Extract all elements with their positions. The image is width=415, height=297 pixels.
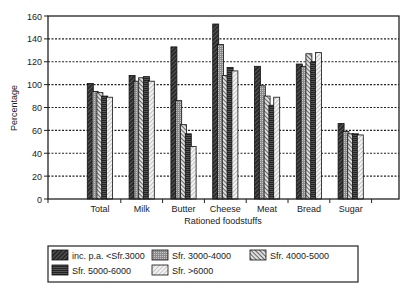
legend-item: Sfr. 3000-4000 xyxy=(152,250,231,261)
x-tick-label: Milk xyxy=(134,204,150,214)
legend-label: Sfr. 3000-4000 xyxy=(172,251,231,261)
bar-group-total xyxy=(87,83,112,199)
y-tick-label: 160 xyxy=(27,12,42,22)
bar-chart: 020406080100120140160TotalMilkButterChee… xyxy=(0,0,415,297)
bar-group-butter xyxy=(171,47,196,199)
bar xyxy=(357,135,363,199)
bars xyxy=(87,24,363,199)
y-tick-label: 60 xyxy=(32,126,42,136)
legend-item: Sfr. >6000 xyxy=(152,265,213,276)
x-tick-label: Bread xyxy=(297,204,321,214)
bar-group-bread xyxy=(296,53,321,199)
legend-item: inc. p.a. <Sfr.3000 xyxy=(52,250,145,261)
legend-label: Sfr. 5000-6000 xyxy=(72,266,131,276)
bar-group-meat xyxy=(255,66,280,199)
legend: inc. p.a. <Sfr.3000Sfr. 3000-4000Sfr. 40… xyxy=(48,246,358,282)
bar xyxy=(148,81,154,199)
legend-label: inc. p.a. <Sfr.3000 xyxy=(72,251,145,261)
y-tick-label: 80 xyxy=(32,103,42,113)
y-tick-label: 100 xyxy=(27,80,42,90)
bar xyxy=(107,97,113,199)
y-tick-label: 120 xyxy=(27,57,42,67)
legend-swatch xyxy=(52,250,68,260)
x-tick-label: Butter xyxy=(171,204,195,214)
legend-swatch xyxy=(52,265,68,275)
legend-swatch xyxy=(250,250,266,260)
bar xyxy=(316,53,322,199)
x-tick-label: Cheese xyxy=(210,204,241,214)
bar xyxy=(190,146,196,199)
legend-swatch xyxy=(152,250,168,260)
x-tick-label: Total xyxy=(90,204,109,214)
y-tick-label: 0 xyxy=(37,195,42,205)
x-tick-label: Sugar xyxy=(339,204,363,214)
legend-swatch xyxy=(152,265,168,275)
y-tick-label: 140 xyxy=(27,34,42,44)
bar-group-cheese xyxy=(213,24,238,199)
legend-item: Sfr. 4000-5000 xyxy=(250,250,329,261)
legend-item: Sfr. 5000-6000 xyxy=(52,265,131,276)
legend-label: Sfr. >6000 xyxy=(172,266,213,276)
bar xyxy=(274,97,280,199)
x-axis-label: Rationed foodstuffs xyxy=(184,216,262,226)
y-tick-label: 20 xyxy=(32,172,42,182)
y-tick-label: 40 xyxy=(32,149,42,159)
bar xyxy=(232,71,238,199)
legend-label: Sfr. 4000-5000 xyxy=(270,251,329,261)
x-tick-label: Meat xyxy=(257,204,278,214)
y-axis-label: Percentage xyxy=(9,85,19,131)
bar-group-milk xyxy=(129,75,154,199)
bar-group-sugar xyxy=(338,124,363,199)
